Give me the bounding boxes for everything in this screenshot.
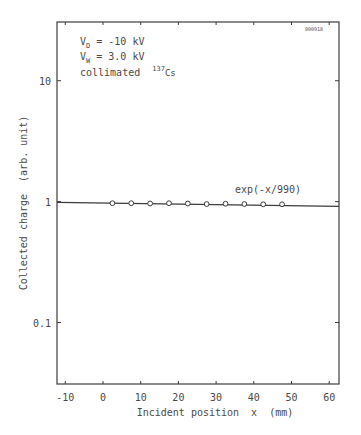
x-tick-label: 0 xyxy=(100,392,106,403)
annotation-source: collimated 137Cs xyxy=(80,65,176,78)
x-tick-label: -10 xyxy=(56,392,74,403)
y-tick-label: 1 xyxy=(45,197,51,208)
id-stamp: 800918 xyxy=(305,26,323,32)
y-tick-label: 10 xyxy=(39,76,51,87)
x-axis-label: Incident position x (mm) xyxy=(137,407,294,418)
data-point xyxy=(242,202,247,207)
y-tick-label: 0.1 xyxy=(33,318,51,329)
x-tick-label: 40 xyxy=(248,392,260,403)
chart: -100102030405060 0.1110 800918 VD = -10 … xyxy=(0,0,361,435)
data-point xyxy=(223,201,228,206)
fit-curve xyxy=(57,202,339,206)
x-tick-label: 20 xyxy=(172,392,184,403)
data-point xyxy=(148,201,153,206)
data-point xyxy=(204,202,209,207)
annotation-vd: VD = -10 kV xyxy=(80,36,144,50)
data-point xyxy=(185,201,190,206)
fit-line xyxy=(57,202,339,206)
x-tick-label: 60 xyxy=(323,392,335,403)
x-tick-label: 30 xyxy=(210,392,222,403)
x-axis-ticks: -100102030405060 xyxy=(56,22,335,403)
x-tick-label: 50 xyxy=(285,392,297,403)
x-tick-label: 10 xyxy=(135,392,147,403)
data-point xyxy=(261,202,266,207)
y-axis-label: Collected charge (arb. unit) xyxy=(18,116,29,291)
data-point xyxy=(167,201,172,206)
annotation-vw: VW = 3.0 kV xyxy=(80,51,144,65)
data-point xyxy=(280,202,285,207)
fit-label: exp(-x/990) xyxy=(235,184,301,195)
data-point xyxy=(129,201,134,206)
data-point xyxy=(110,201,115,206)
